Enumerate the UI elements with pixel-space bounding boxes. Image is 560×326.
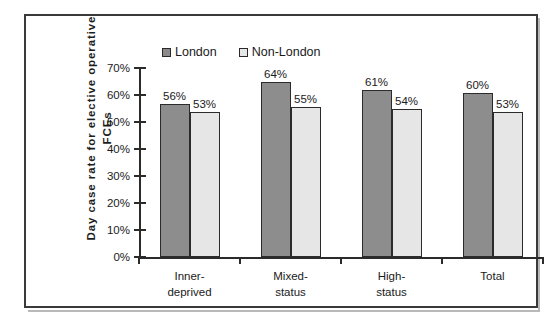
- chart-screenshot: Day case rate for elective operative FCE…: [0, 0, 560, 326]
- bar-value-label: 53%: [496, 98, 519, 110]
- bar-value-label: 61%: [365, 76, 388, 88]
- bar-value-label: 56%: [163, 90, 186, 102]
- plot-area: 0%10%20%30%40%50%60%70%56%53%Inner-depri…: [139, 68, 543, 259]
- y-axis-tick-label: 60%: [107, 89, 130, 101]
- category-label-line-2: deprived: [167, 284, 211, 300]
- category-label-line-2: status: [376, 284, 407, 300]
- x-axis-tick: [138, 257, 140, 264]
- y-axis-tick-label: 40%: [107, 143, 130, 155]
- y-axis-tick: [134, 256, 146, 258]
- legend-item-london: London: [162, 45, 217, 59]
- y-axis-tick: [134, 148, 146, 150]
- chart-frame: Day case rate for elective operative FCE…: [24, 14, 538, 308]
- legend-label-london: London: [175, 45, 217, 59]
- bar-non-london-inner-deprived: [190, 112, 220, 257]
- y-axis-title: Day case rate for elective operative FCE…: [83, 3, 115, 253]
- x-axis-tick: [441, 257, 443, 264]
- y-axis-tick-label: 50%: [107, 116, 130, 128]
- bar-value-label: 54%: [395, 95, 418, 107]
- bar-london-inner-deprived: [160, 104, 190, 257]
- x-axis-category-label: Mixed-status: [273, 268, 308, 300]
- non-london-swatch-icon: [239, 48, 248, 57]
- category-label-line-2: status: [273, 284, 308, 300]
- y-axis-tick: [134, 175, 146, 177]
- bar-non-london-high-status: [392, 109, 422, 257]
- chart-legend: London Non-London: [162, 45, 321, 59]
- bar-value-label: 53%: [193, 98, 216, 110]
- category-label-line-1: Mixed-: [273, 268, 308, 284]
- y-axis-tick: [134, 229, 146, 231]
- x-axis-category-label: Total: [480, 268, 504, 284]
- category-label-line-1: High-: [376, 268, 407, 284]
- x-axis-category-label: Inner-deprived: [167, 268, 211, 300]
- bar-non-london-mixed-status: [291, 107, 321, 258]
- y-axis-tick-label: 20%: [107, 197, 130, 209]
- bar-london-high-status: [362, 90, 392, 257]
- y-axis-tick: [134, 121, 146, 123]
- y-axis-tick: [134, 202, 146, 204]
- x-axis-tick: [239, 257, 241, 264]
- london-swatch-icon: [162, 48, 171, 57]
- y-axis-tick: [134, 94, 146, 96]
- category-label-line-1: Inner-: [167, 268, 211, 284]
- bar-london-mixed-status: [261, 82, 291, 257]
- bar-value-label: 60%: [466, 79, 489, 91]
- legend-item-non-london: Non-London: [239, 45, 321, 59]
- x-axis-category-label: High-status: [376, 268, 407, 300]
- y-axis-tick-label: 10%: [107, 224, 130, 236]
- y-axis-tick: [134, 67, 146, 69]
- bar-value-label: 64%: [264, 68, 287, 80]
- x-axis-tick: [340, 257, 342, 264]
- frame-drop-shadow-bottom: [28, 310, 540, 312]
- y-axis-title-line-1: Day case rate for elective operative: [85, 16, 97, 241]
- y-axis-tick-label: 30%: [107, 170, 130, 182]
- y-axis-tick-label: 70%: [107, 62, 130, 74]
- bar-value-label: 55%: [294, 93, 317, 105]
- category-label-line-1: Total: [480, 268, 504, 284]
- y-axis-tick-label: 0%: [113, 251, 130, 263]
- bar-non-london-total: [493, 112, 523, 257]
- x-axis-tick: [542, 257, 544, 264]
- legend-label-non-london: Non-London: [252, 45, 321, 59]
- bar-london-total: [463, 93, 493, 257]
